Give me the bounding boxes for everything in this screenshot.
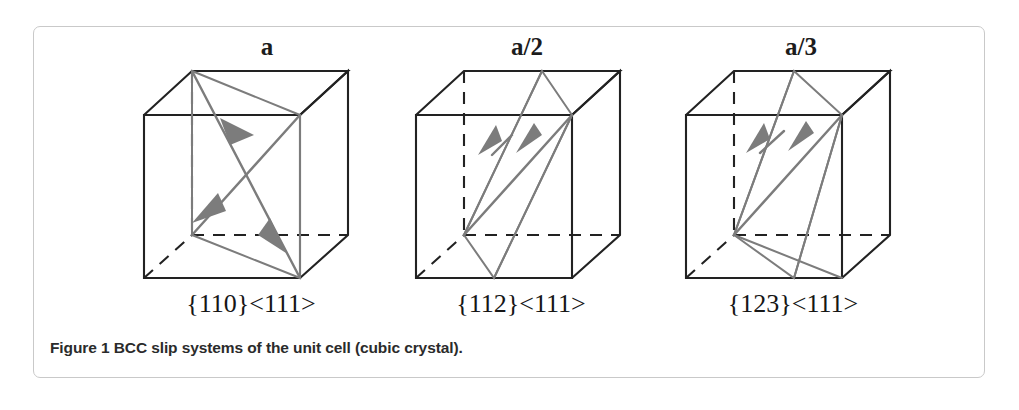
slip-system-cube-1: a <box>102 27 392 337</box>
cube-3-top-label: a/3 <box>644 33 946 61</box>
figure-panel: a <box>33 26 985 378</box>
slip-system-cube-3: a/3 {123}<111> <box>644 27 934 337</box>
cube-2-bottom-label: {112}<111> <box>374 289 666 319</box>
cube-3-diagram <box>644 63 934 293</box>
cube-1-diagram <box>102 63 392 293</box>
figure-diagram-area: a <box>34 27 984 337</box>
cube-2-top-label: a/2 <box>374 33 672 61</box>
figure-caption: Figure 1 BCC slip systems of the unit ce… <box>50 339 968 357</box>
cube-1-top-label: a <box>102 33 412 61</box>
cube-2-diagram <box>374 63 664 293</box>
cube-1-bottom-label: {110}<111> <box>102 289 396 319</box>
slip-system-cube-2: a/2 {112}<111> <box>374 27 664 337</box>
cube-3-bottom-label: {123}<111> <box>644 289 938 319</box>
